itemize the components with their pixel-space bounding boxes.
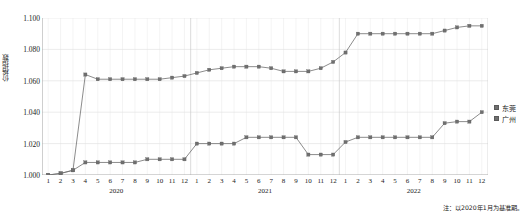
y-axis-tick-label: 1.060 [10,77,40,86]
data-point [158,78,161,81]
data-point [455,120,458,123]
data-point [480,111,483,114]
data-point [282,136,285,139]
data-point [393,32,396,35]
x-axis-tick-label: 12 [474,177,490,185]
legend-item-1[interactable]: 广州 [494,113,532,124]
y-axis-tick-label: 1.080 [10,45,40,54]
data-point [480,24,483,27]
data-point [183,74,186,77]
data-point [170,76,173,79]
data-point [443,122,446,125]
x-axis-year-label: 2020 [96,187,136,195]
data-point [170,158,173,161]
data-point [369,136,372,139]
legend-marker-icon [494,116,499,121]
data-point [146,158,149,161]
legend-marker-icon [494,105,499,110]
data-point [47,173,50,175]
data-point [393,136,396,139]
data-point [332,60,335,63]
data-point [307,70,310,73]
data-point [431,32,434,35]
data-point [406,32,409,35]
data-point [270,136,273,139]
y-axis-tick-label: 1.100 [10,14,40,23]
data-point [431,136,434,139]
legend: 东莞广州 [494,102,532,124]
data-point [220,67,223,70]
chart-note: 注：以2020年1月为基准期。 [443,203,523,212]
data-point [146,78,149,81]
data-point [381,32,384,35]
data-point [245,65,248,68]
data-point [109,161,112,164]
data-point [96,161,99,164]
data-point [307,153,310,156]
data-point [133,78,136,81]
legend-label: 广州 [502,114,516,124]
y-axis-tick-label: 1.040 [10,108,40,117]
legend-label: 东莞 [502,103,516,113]
data-point [294,70,297,73]
data-point [443,29,446,32]
data-point [245,136,248,139]
data-point [356,32,359,35]
data-point [344,51,347,54]
plot-area [42,18,488,175]
data-point [319,153,322,156]
data-point [109,78,112,81]
data-point [84,73,87,76]
data-point [96,78,99,81]
data-point [406,136,409,139]
data-point [282,70,285,73]
data-point [332,153,335,156]
data-point [257,136,260,139]
chart-figure: 价格指数 1.0001.0201.0401.0601.0801.100 1234… [0,0,532,219]
data-point [158,158,161,161]
data-point [369,32,372,35]
data-point [195,71,198,74]
data-point [294,136,297,139]
data-point [232,142,235,145]
data-point [418,136,421,139]
data-point [381,136,384,139]
data-point [319,67,322,70]
data-point [468,24,471,27]
data-point [468,120,471,123]
data-point [220,142,223,145]
y-axis-tick-label: 1.020 [10,140,40,149]
data-point [195,142,198,145]
data-point [455,26,458,29]
y-axis-tick-label: 1.000 [10,171,40,180]
y-axis-tick-labels: 1.0001.0201.0401.0601.0801.100 [10,0,40,219]
series-line-0 [48,26,482,175]
data-point [208,68,211,71]
chart-canvas [42,18,488,175]
data-point [59,172,62,175]
data-point [133,161,136,164]
data-point [84,161,87,164]
x-axis-year-labels: 202020212022 [42,187,488,199]
data-point [356,136,359,139]
data-point [121,161,124,164]
data-point [270,67,273,70]
data-point [121,78,124,81]
data-point [257,65,260,68]
data-point [71,169,74,172]
legend-item-0[interactable]: 东莞 [494,102,532,113]
data-point [232,65,235,68]
data-point [344,140,347,143]
data-point [418,32,421,35]
data-point [208,142,211,145]
x-axis-year-label: 2022 [394,187,434,195]
x-axis-year-label: 2021 [245,187,285,195]
data-point [183,158,186,161]
